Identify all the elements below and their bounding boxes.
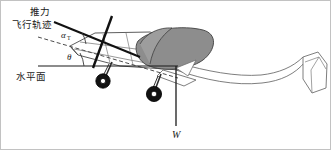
theta-angle-label: θ: [67, 52, 72, 62]
wheel-front-hub: [100, 78, 105, 83]
flight-path-label: 飞行轨迹: [12, 19, 52, 30]
wheel-rear-hub: [151, 91, 157, 97]
figure-container: 推力 飞行轨迹 水平面 α T θ W: [0, 0, 331, 150]
horizontal-plane-label: 水平面: [16, 71, 46, 82]
alpha-symbol: α: [61, 30, 66, 40]
thrust-label: 推力: [30, 6, 50, 17]
alpha-subscript: T: [67, 35, 71, 41]
aircraft-diagram: 推力 飞行轨迹 水平面 α T θ W: [0, 0, 331, 150]
